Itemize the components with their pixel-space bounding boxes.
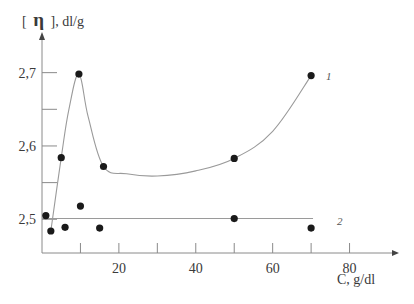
data-point xyxy=(47,227,54,234)
data-point xyxy=(308,72,315,79)
x-tick-label: 20 xyxy=(112,261,126,276)
y-tick-label: 2,6 xyxy=(19,139,37,154)
labels: [ η ], dl/g C, g/dl xyxy=(22,9,375,287)
x-tick-label: 60 xyxy=(266,261,280,276)
data-points xyxy=(42,71,314,235)
series-1-label: 1 xyxy=(326,70,332,82)
data-point xyxy=(231,155,238,162)
series-curves: 12 xyxy=(42,70,343,231)
y-axis-title-eta: η xyxy=(33,9,44,30)
x-axis-arrow xyxy=(392,250,399,256)
y-tick-label: 2,7 xyxy=(19,66,37,81)
data-point xyxy=(42,212,49,219)
data-point xyxy=(77,202,84,209)
series-2-label: 2 xyxy=(337,215,343,227)
y-axis-title-bracket-open: [ xyxy=(22,14,27,29)
y-axis-title-suffix: ], dl/g xyxy=(50,14,83,29)
data-point xyxy=(96,224,103,231)
y-axis-title: [ η ], dl/g xyxy=(22,9,84,30)
data-point xyxy=(308,224,315,231)
y-tick-label: 2,5 xyxy=(19,212,37,227)
chart: 204060802,52,62,7 12 [ η ], dl/g C, g/dl xyxy=(0,0,414,304)
data-point xyxy=(61,224,68,231)
series-1-curve xyxy=(51,74,311,231)
axes: 204060802,52,62,7 xyxy=(19,32,400,276)
data-point xyxy=(100,163,107,170)
data-point xyxy=(75,71,82,78)
x-axis-title: C, g/dl xyxy=(337,272,375,287)
data-point xyxy=(58,154,65,161)
y-axis-arrow xyxy=(39,32,45,40)
x-tick-label: 40 xyxy=(189,261,203,276)
data-point xyxy=(231,215,238,222)
